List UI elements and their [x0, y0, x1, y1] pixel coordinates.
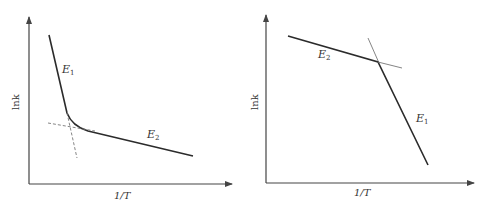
right-figure: E2 E1 lnk 1/T [249, 15, 474, 198]
left-dashed-tangent-e2 [48, 123, 95, 131]
right-thin-extension-e2 [378, 62, 402, 68]
right-x-axis-label: 1/T [354, 187, 372, 198]
right-label-e2: E2 [317, 48, 331, 62]
left-x-axis-label: 1/T [114, 190, 132, 201]
left-dashed-tangent-e1 [67, 113, 77, 158]
right-curve [288, 36, 428, 165]
left-label-e1: E1 [61, 63, 75, 77]
right-label-e1: E1 [415, 112, 429, 126]
left-curve [49, 35, 193, 156]
left-figure: E1 E2 lnk 1/T [10, 17, 232, 201]
left-label-e2: E2 [146, 128, 160, 142]
diagram-canvas: E1 E2 lnk 1/T E2 E1 lnk 1/T [0, 0, 483, 209]
left-y-axis-label: lnk [10, 93, 21, 110]
right-y-axis-label: lnk [249, 93, 260, 110]
